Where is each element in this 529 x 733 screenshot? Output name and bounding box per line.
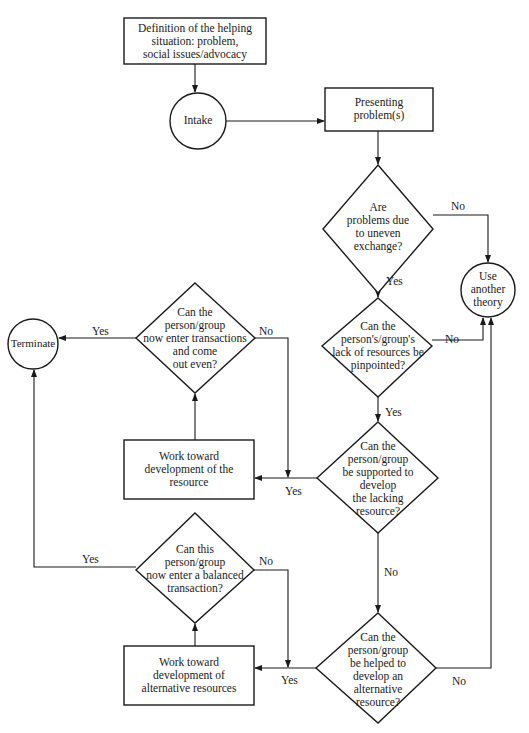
label-definition: Definition of the helping situation: pro… bbox=[124, 22, 266, 61]
label-q-out-even: Can the person/group now enter transacti… bbox=[135, 306, 255, 371]
label-terminate: Terminate bbox=[8, 337, 58, 350]
edge-balanced-yes bbox=[34, 370, 136, 567]
edge-label-pinpoint-no: No bbox=[445, 333, 459, 346]
label-q-balanced: Can this person/group now enter a balanc… bbox=[135, 543, 255, 595]
flowchart-canvas bbox=[0, 0, 529, 733]
label-presenting: Presenting problem(s) bbox=[325, 96, 433, 122]
edge-label-supported-no: No bbox=[384, 566, 398, 579]
edge-label-balanced-no: No bbox=[259, 555, 273, 568]
edge-label-out-even-no: No bbox=[259, 325, 273, 338]
edge-label-uneven-no: No bbox=[451, 200, 465, 213]
edge-alternative-no bbox=[436, 318, 491, 668]
label-q-uneven: Are problems due to uneven exchange? bbox=[333, 201, 423, 253]
edge-balanced-no bbox=[254, 570, 288, 667]
edge-label-pinpoint-yes: Yes bbox=[385, 406, 402, 419]
label-work-alternative: Work toward development of alternative r… bbox=[124, 656, 254, 695]
edge-label-alternative-yes: Yes bbox=[281, 674, 298, 687]
label-q-alternative: Can the person/group be helped to develo… bbox=[333, 631, 423, 709]
label-use-other: Use another theory bbox=[461, 270, 515, 309]
edge-label-alternative-no: No bbox=[452, 675, 466, 688]
label-q-pinpoint: Can the person's/group's lack of resourc… bbox=[316, 320, 440, 372]
edge-uneven-no bbox=[433, 215, 488, 262]
label-q-supported: Can the person/group be supported to dev… bbox=[328, 440, 428, 518]
label-intake: Intake bbox=[170, 114, 226, 127]
label-work-resource: Work toward development of the resource bbox=[124, 450, 254, 489]
edge-out-even-no bbox=[255, 338, 288, 477]
edge-label-uneven-yes: Yes bbox=[386, 275, 403, 288]
edge-label-balanced-yes: Yes bbox=[82, 553, 99, 566]
edge-label-out-even-yes: Yes bbox=[92, 325, 109, 338]
edge-label-supported-yes: Yes bbox=[285, 485, 302, 498]
